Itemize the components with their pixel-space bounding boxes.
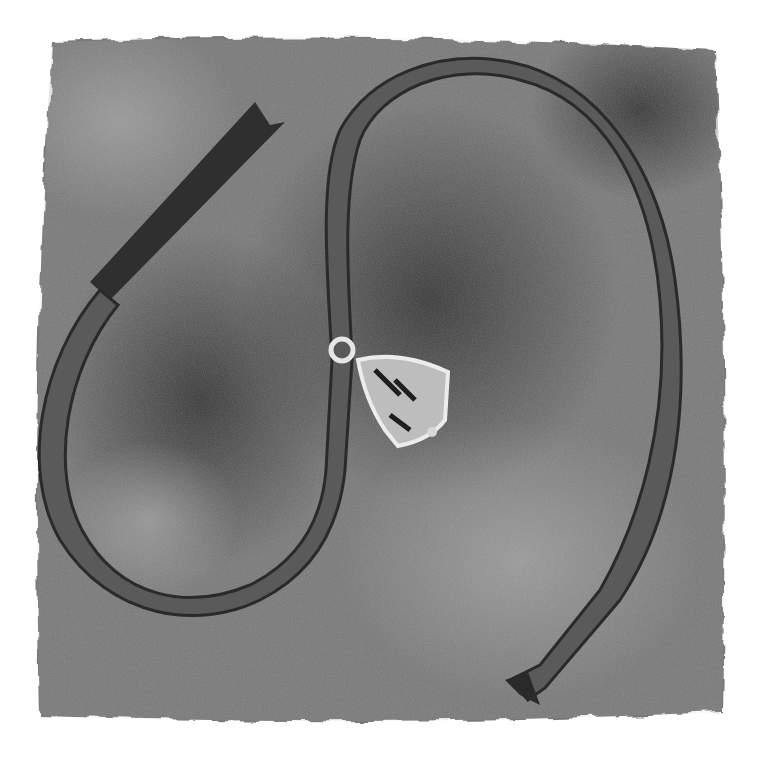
watercolor-illustration [0,0,759,759]
